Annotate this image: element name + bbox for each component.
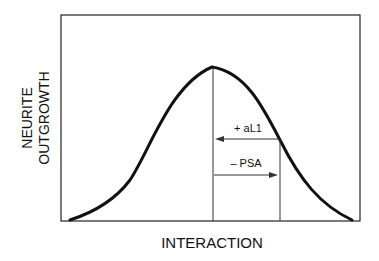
annotation-psa: – PSA xyxy=(230,157,262,169)
y-axis-label-line1: NEURITE xyxy=(19,87,35,148)
annotation-al1: + aL1 xyxy=(234,122,262,134)
y-axis-label-line2: OUTGROWTH xyxy=(36,71,52,164)
plot-frame xyxy=(61,15,360,221)
arrow-right-icon xyxy=(269,172,278,178)
x-axis-label: INTERACTION xyxy=(161,234,263,251)
arrow-left-icon xyxy=(215,136,224,142)
diagram: + aL1 – PSA NEURITE OUTGROWTH INTERACTIO… xyxy=(0,0,379,261)
bell-curve xyxy=(70,67,352,220)
